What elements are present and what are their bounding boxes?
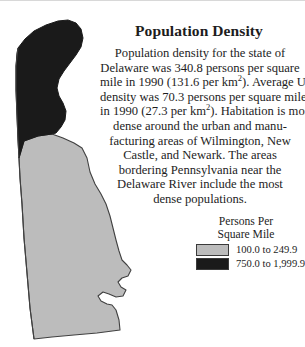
population-density-map-figure: Population Density Population density fo… (0, 0, 305, 347)
body-line-7: facturing areas of Wilmington, New (100, 134, 300, 149)
body-line-5-b: ). Habitation is most (210, 104, 305, 118)
body-line-9: bordering Pennsylvania near the (100, 163, 300, 178)
legend-label-high: 750.0 to 1,999.9 (236, 258, 305, 270)
legend-title-line-1: Persons Per (196, 216, 296, 229)
legend-title-line-2: Square Mile (196, 229, 296, 242)
body-line-11: dense populations. (100, 192, 300, 207)
description-text: Population density for the state of Dela… (100, 46, 300, 207)
legend-entry-low: 100.0 to 249.9 (196, 244, 302, 256)
legend-label-low: 100.0 to 249.9 (236, 244, 297, 256)
legend-title: Persons Per Square Mile (196, 216, 296, 241)
body-line-5-a: in 1990 (27.3 per km (100, 104, 206, 118)
body-line-6: dense around the urban and manu- (100, 119, 300, 134)
map-legend: Persons Per Square Mile 100.0 to 249.9 7… (196, 216, 302, 270)
body-line-10: Delaware River include the most (100, 177, 300, 192)
body-line-1: Population density for the state of (100, 46, 300, 61)
page-title: Population Density (100, 22, 298, 40)
body-line-3-a: mile in 1990 (131.6 per km (100, 75, 238, 89)
body-line-4: density was 70.3 persons per square mile (100, 90, 300, 105)
body-line-5: in 1990 (27.3 per km2). Habitation is mo… (100, 104, 300, 119)
body-line-3-b: ). Average U.S. (242, 75, 305, 89)
legend-entry-high: 750.0 to 1,999.9 (196, 258, 302, 270)
body-line-8: Castle, and Newark. The areas (100, 148, 300, 163)
top-divider-rule (0, 0, 305, 1)
legend-swatch-high-icon (196, 258, 229, 270)
legend-swatch-low-icon (196, 244, 229, 256)
body-line-2: Delaware was 340.8 persons per square (100, 61, 300, 76)
body-line-3: mile in 1990 (131.6 per km2). Average U.… (100, 75, 300, 90)
